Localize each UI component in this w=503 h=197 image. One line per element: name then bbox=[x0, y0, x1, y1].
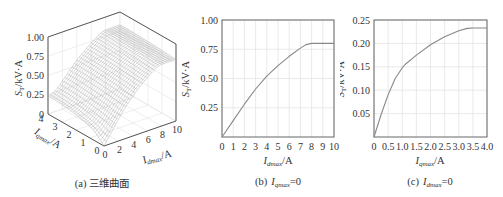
y-tick-label: 0.05 bbox=[353, 108, 371, 119]
z-tick-label: 0.75 bbox=[27, 51, 45, 62]
x-tick-label: 1 bbox=[231, 141, 236, 152]
x-tick-label: 7 bbox=[298, 141, 303, 152]
y-tick-label: 0.10 bbox=[353, 85, 371, 96]
x-axis-label-c: Iqmax/A bbox=[414, 155, 445, 168]
x-tick-label: 3.0 bbox=[453, 141, 466, 152]
mesh-line bbox=[63, 34, 135, 106]
mesh-line bbox=[76, 42, 148, 115]
caption-a: (a) 三维曲面 bbox=[75, 177, 129, 190]
y-tick-label: 0.25 bbox=[353, 15, 371, 26]
x-tick-label: 0 bbox=[372, 141, 377, 152]
y-tick-label: 0.50 bbox=[201, 73, 219, 84]
panel-c-line-plot: 00.51.01.52.02.53.03.54.00.050.100.150.2… bbox=[340, 0, 503, 197]
x-tick-label: 1.5 bbox=[410, 141, 423, 152]
plot-area-b: 0123456789100.250.500.751.00 bbox=[201, 15, 340, 153]
caption-c: (c)Idmax=0 bbox=[407, 176, 453, 189]
z-tick-label: 0.25 bbox=[27, 89, 45, 100]
mesh-line bbox=[61, 32, 133, 104]
x-tick-label: 2.0 bbox=[424, 141, 437, 152]
y-axis-label-b: ST/kV·A bbox=[180, 60, 193, 97]
x-tick-label: 3.5 bbox=[467, 141, 480, 152]
x-tick-label: 0 bbox=[103, 149, 108, 160]
y-tick-label: 2 bbox=[67, 129, 72, 140]
x-tick-label: 6 bbox=[287, 141, 292, 152]
z-axis-label: ST/kV·A bbox=[13, 59, 26, 96]
x-axis-label-b: Idmax/A bbox=[262, 155, 293, 168]
x-tick-label: 0.5 bbox=[382, 141, 395, 152]
y-tick-label: 1 bbox=[81, 137, 86, 148]
mesh-line bbox=[115, 27, 171, 62]
z-tick-label: 1.00 bbox=[27, 32, 45, 43]
y-axis-label-qmax: Iqmax/A bbox=[31, 125, 64, 152]
x-tick-label: 8 bbox=[160, 129, 165, 140]
y-tick-label: 0 bbox=[95, 145, 100, 156]
box-line bbox=[48, 31, 120, 56]
x-tick-label: 4.0 bbox=[481, 141, 494, 152]
caption-b: (b)Iqmax=0 bbox=[255, 176, 301, 189]
x-tick-label: 2.5 bbox=[438, 141, 451, 152]
x-tick-label: 8 bbox=[309, 141, 314, 152]
plot-area-c: 00.51.01.52.02.53.03.54.00.050.100.150.2… bbox=[353, 15, 494, 153]
mesh-line bbox=[118, 26, 174, 61]
x-tick-label: 9 bbox=[320, 141, 325, 152]
mesh-line bbox=[72, 39, 144, 112]
panel-b-line-plot: 0123456789100.250.500.751.00 ST/kV·A Idm… bbox=[180, 0, 350, 197]
y-tick-label: 3 bbox=[53, 121, 58, 132]
mesh-line bbox=[113, 27, 169, 62]
mesh-line bbox=[48, 25, 120, 96]
x-tick-label: 10 bbox=[329, 141, 339, 152]
x-tick-label: 1.0 bbox=[396, 141, 409, 152]
box-line bbox=[104, 121, 176, 146]
x-tick-label: 0 bbox=[220, 141, 225, 152]
mesh-line bbox=[67, 36, 139, 108]
x-tick-label: 6 bbox=[146, 134, 151, 145]
mesh-line bbox=[74, 40, 146, 113]
z-tick-label: 0.50 bbox=[27, 70, 45, 81]
box-line bbox=[48, 12, 120, 37]
x-tick-label: 4 bbox=[264, 141, 269, 152]
y-tick-label: 0.20 bbox=[353, 38, 371, 49]
y-tick-label: 4 bbox=[39, 113, 44, 124]
y-tick-label: 0.25 bbox=[201, 102, 219, 113]
y-tick-label: 0.15 bbox=[353, 61, 371, 72]
x-tick-label: 3 bbox=[253, 141, 258, 152]
y-axis-label-c: ST/kV·A bbox=[340, 60, 348, 97]
x-tick-label: 5 bbox=[276, 141, 281, 152]
mesh-line bbox=[54, 28, 126, 99]
y-tick-label: 1.00 bbox=[201, 15, 219, 26]
x-tick-label: 2 bbox=[242, 141, 247, 152]
panel-a-surface-plot: 00.250.500.751.00024681001234 ST/kV·A Iq… bbox=[0, 0, 200, 197]
y-tick-label: 0.75 bbox=[201, 44, 219, 55]
x-axis-label-dmax: Idmax/A bbox=[142, 148, 174, 168]
x-tick-label: 4 bbox=[131, 139, 136, 150]
x-tick-label: 2 bbox=[117, 144, 122, 155]
